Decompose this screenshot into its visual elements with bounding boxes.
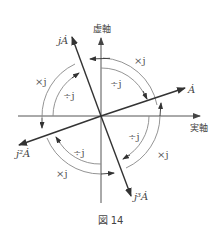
op-label-ur-outer: ×j bbox=[134, 55, 145, 66]
imaginary-axis-label: 虚軸 bbox=[93, 23, 111, 34]
vector-jA-label: jȦ bbox=[56, 35, 68, 46]
arc-outer-upper-right-arrow bbox=[90, 58, 110, 59]
arc-outer-lower-right-arrow bbox=[160, 103, 161, 116]
vector-A-label: Ȧ bbox=[187, 84, 195, 95]
op-label-lr-inner: ÷j bbox=[128, 131, 139, 142]
diagram-canvas: 虚軸 実軸 Ȧ jȦ j²Ȧ j³Ȧ ×j ÷j ×j ÷j ÷j ×j ÷j … bbox=[0, 0, 221, 243]
op-label-ll-outer: ×j bbox=[56, 168, 67, 179]
vector-j3A bbox=[101, 116, 131, 196]
op-label-ul-inner: ÷j bbox=[63, 90, 74, 101]
vector-j2A bbox=[19, 116, 101, 145]
vector-j2A-label: j²Ȧ bbox=[14, 148, 30, 159]
figure-caption: 図 14 bbox=[0, 212, 221, 227]
arc-inner-upper-right bbox=[101, 68, 146, 98]
phasor-rotation-diagram: 虚軸 実軸 Ȧ jȦ j²Ȧ j³Ȧ ×j ÷j ×j ÷j ÷j ×j ÷j … bbox=[0, 0, 221, 243]
arc-inner-lower-right-arrow bbox=[123, 155, 130, 159]
arc-outer-lower-left-arrow bbox=[101, 173, 114, 174]
real-axis-label: 実軸 bbox=[190, 122, 208, 133]
vector-j3A-label: j³Ȧ bbox=[132, 191, 148, 202]
arc-inner-upper-left-arrow bbox=[72, 73, 79, 78]
op-label-lr-outer: ×j bbox=[157, 149, 168, 160]
op-label-ur-inner: ÷j bbox=[110, 78, 121, 89]
arc-outer-lower-right bbox=[126, 116, 160, 168]
arc-inner-upper-right-arrow bbox=[143, 91, 147, 99]
arc-inner-lower-left-arrow bbox=[56, 137, 60, 143]
vector-jA bbox=[72, 37, 101, 116]
op-label-ll-inner: ÷j bbox=[73, 147, 84, 158]
op-label-ul-outer: ×j bbox=[35, 76, 46, 87]
